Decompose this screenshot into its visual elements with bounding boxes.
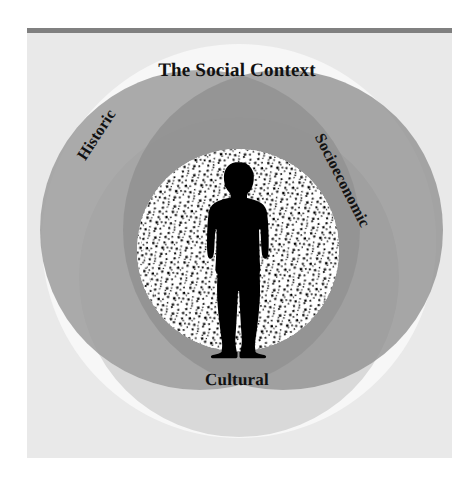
figure-title: The Social Context [0, 60, 474, 82]
social-context-figure: The Social Context Historic Socioeconomi… [0, 0, 474, 483]
label-cultural: Cultural [0, 370, 474, 390]
